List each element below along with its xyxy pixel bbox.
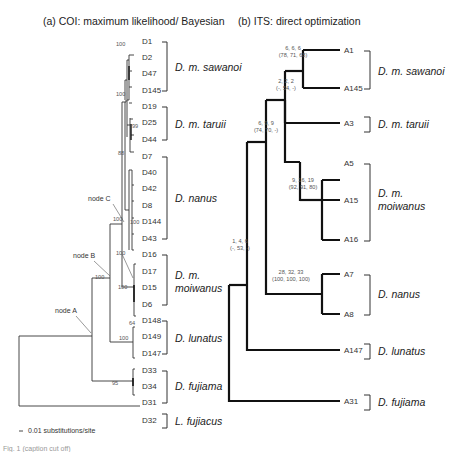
tip-label: D6: [142, 300, 153, 309]
clade-bracket: [364, 117, 370, 132]
clade-bracket: [364, 51, 370, 89]
species-label: D. m.: [378, 187, 403, 199]
species-label: D. m.: [175, 269, 200, 281]
bremer-support: 2, 2, 2: [278, 78, 294, 84]
panel-b-tips: A1 A145 A3 A5 A15 A16 A7 A8 A147 A31: [344, 46, 363, 406]
tip-label: D147: [142, 349, 162, 358]
tip-label: A147: [344, 346, 363, 355]
bremer-support: 6, 9, 9: [258, 120, 274, 126]
tip-label: D2: [142, 53, 153, 62]
panel-b-brackets: [364, 51, 370, 410]
tip-label: D148: [142, 316, 162, 325]
tip-label: A31: [344, 397, 359, 406]
caption-cut: Fig. 1 (caption cut off): [3, 445, 71, 452]
tip-label: D31: [142, 398, 157, 407]
tip-label: D47: [142, 69, 157, 78]
tip-label: D17: [142, 267, 157, 276]
species-label: D. nanus: [378, 288, 421, 300]
bootstrap-support: (100, 100, 100): [272, 276, 310, 282]
species-label: D. lunatus: [175, 332, 223, 344]
clade-bracket: [162, 107, 167, 140]
species-label: D. lunatus: [378, 345, 426, 357]
tip-label: D42: [142, 184, 157, 193]
node-c-label: node C: [88, 195, 111, 202]
branch-a31: [229, 285, 340, 401]
panel-b-title: (b) ITS: direct optimization: [238, 15, 361, 27]
clade-bracket: [162, 255, 167, 305]
tip-label: D25: [142, 118, 157, 127]
tip-label: D7: [142, 152, 153, 161]
clade-bracket: [364, 344, 370, 359]
support-value: 100: [116, 91, 125, 97]
panel-b-species: D. m. sawanoi D. m. taruii D. m. moiwanu…: [378, 65, 445, 408]
species-label: D. m. sawanoi: [175, 61, 242, 73]
tip-label: D34: [142, 382, 157, 391]
clade-bracket: [162, 371, 167, 403]
support-value: 88: [118, 150, 124, 156]
tip-label: A15: [344, 196, 359, 205]
bootstrap-support: (78, 71, 68): [279, 52, 308, 58]
species-label: D. fujiama: [175, 380, 222, 392]
node-b-label: node B: [73, 252, 96, 259]
clade-bracket: [162, 414, 167, 428]
support-value: 100: [130, 219, 139, 225]
panel-a-tree: [19, 55, 140, 406]
tip-label: D145: [142, 86, 162, 95]
tip-label: D149: [142, 332, 162, 341]
panel-a-species: D. m. sawanoi D. m. taruii D. nanus D. m…: [175, 61, 242, 427]
branch-fujiama: [92, 278, 133, 381]
species-label: moiwanus: [175, 282, 223, 294]
tip-label: D43: [142, 234, 157, 243]
species-label: D. m. sawanoi: [378, 65, 445, 77]
tip-label: D40: [142, 168, 157, 177]
species-label: D. m. taruii: [175, 118, 226, 130]
bremer-support: 9, 16, 19: [292, 177, 314, 183]
support-value: 100: [119, 335, 128, 341]
panel-b-tree: [229, 50, 340, 401]
bremer-support: (-, 54, -): [276, 85, 296, 91]
tip-label: D19: [142, 102, 157, 111]
tip-label: D44: [142, 135, 157, 144]
tip-label: A1: [344, 46, 354, 55]
bremer-support: 6, 6, 6: [285, 45, 301, 51]
clade-bracket: [162, 157, 167, 239]
panel-a-tips: D1 D2 D47 D145 D19 D25 D44 D7 D40 D42 D8…: [142, 37, 162, 425]
support-value: 100: [95, 274, 104, 280]
tip-label: A7: [344, 270, 354, 279]
tip-label: D15: [142, 283, 157, 292]
support-value: 100: [116, 250, 125, 256]
support-value: 100: [116, 41, 125, 47]
tip-label: A5: [344, 159, 354, 168]
tip-label: D144: [142, 217, 162, 226]
panel-a-title: (a) COI: maximum likelihood/ Bayesian: [43, 15, 225, 27]
species-label: D. nanus: [175, 192, 218, 204]
figure-canvas: (a) COI: maximum likelihood/ Bayesian: [0, 0, 457, 452]
tip-label: A8: [344, 310, 354, 319]
bootstrap-support: (92, 91, 80): [289, 184, 318, 190]
bremer-support: 28, 32, 33: [279, 269, 304, 275]
tip-label: A3: [344, 119, 354, 128]
bootstrap-support: (-, 53, -): [230, 245, 250, 251]
bremer-support: 1, 4, 6: [232, 238, 248, 244]
tip-label: A145: [344, 84, 363, 93]
scale-bar-label: 0.01 substitutions/site: [28, 427, 95, 434]
species-label: D. fujiama: [378, 396, 425, 408]
clade-bracket: [364, 164, 370, 241]
panel-a-brackets: [162, 42, 167, 428]
scale-bar: 0.01 substitutions/site: [19, 427, 95, 434]
node-a-label: node A: [55, 307, 77, 314]
branch-a147: [247, 142, 340, 350]
clade-bracket: [162, 42, 167, 91]
clade-bracket: [364, 275, 370, 315]
tip-label: D16: [142, 250, 157, 259]
clade-bracket: [162, 321, 167, 354]
tip-label: D33: [142, 366, 157, 375]
species-label: moiwanus: [378, 200, 426, 212]
species-label: L. fujiacus: [175, 415, 223, 427]
support-value: 95: [112, 380, 118, 386]
support-value: 64: [129, 320, 135, 326]
panel-b-support: 6, 6, 6 (78, 71, 68) 2, 2, 2 (-, 54, -) …: [230, 45, 317, 282]
tip-label: A16: [344, 235, 359, 244]
support-value: 100: [118, 284, 127, 290]
support-value: 99: [132, 123, 138, 129]
